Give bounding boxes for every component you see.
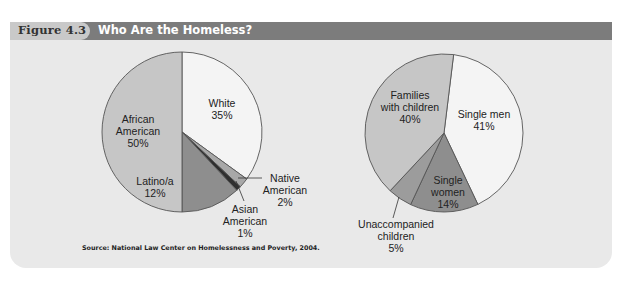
label-native-american-line: Native [270, 172, 300, 184]
label-families-with-children-line: 40% [399, 113, 420, 125]
label-families-with-children-line: with children [380, 101, 440, 113]
label-unaccompanied-children-line: 5% [388, 242, 403, 254]
label-asian-american-line: 1% [237, 227, 252, 239]
label-asian-american-line: Asian [232, 203, 258, 215]
label-single-women-line: Single [433, 174, 462, 186]
leader-lines [236, 178, 399, 218]
label-asian-american-line: American [223, 215, 268, 227]
label-white: White35% [209, 97, 236, 121]
label-african-american-line: African [122, 113, 155, 125]
label-latino-a-line: Latino/a [136, 175, 174, 187]
label-single-women-line: 14% [437, 198, 458, 210]
leader-unaccompanied-children [393, 197, 399, 218]
label-native-american: NativeAmerican2% [263, 172, 308, 208]
label-unaccompanied-children: Unaccompaniedchildren5% [358, 218, 434, 254]
pie-charts: White35%NativeAmerican2%AsianAmerican1%L… [0, 0, 623, 282]
source-note: Source: National Law Center on Homelessn… [82, 244, 320, 252]
label-african-american-line: 50% [127, 137, 148, 149]
label-african-american-line: American [116, 125, 161, 137]
label-single-men-line: Single men [458, 108, 511, 120]
label-unaccompanied-children-line: children [378, 230, 415, 242]
label-native-american-line: American [263, 184, 308, 196]
label-native-american-line: 2% [277, 196, 292, 208]
label-families-with-children-line: Families [390, 89, 429, 101]
label-asian-american: AsianAmerican1% [223, 203, 268, 239]
label-latino-a-line: 12% [144, 187, 165, 199]
label-white-line: White [209, 97, 236, 109]
label-single-men-line: 41% [473, 120, 494, 132]
label-single-women-line: women [430, 186, 465, 198]
label-unaccompanied-children-line: Unaccompanied [358, 218, 434, 230]
label-white-line: 35% [211, 109, 232, 121]
